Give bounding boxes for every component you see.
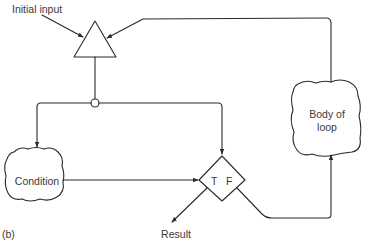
loop-back-edge [107,18,331,82]
body-of-loop-label-line2: loop [317,122,337,133]
figure-label: (b) [2,229,15,240]
flow-diagram [0,0,368,241]
result-label: Result [161,229,191,240]
decision-diamond [199,156,245,201]
true-label: T [211,176,217,187]
true-branch-edge [172,188,207,222]
condition-label: Condition [15,176,59,187]
body-of-loop-label-line1: Body of [309,109,345,120]
initial-input-label: Initial input [12,4,62,15]
initial-input-triangle [74,21,116,57]
junction-to-decision-edge [99,103,222,154]
junction-to-condition-edge [37,103,91,147]
junction-circle [91,99,99,107]
initial-input-arrow [42,15,83,37]
false-label: F [226,176,232,187]
false-branch-edge [237,155,331,218]
